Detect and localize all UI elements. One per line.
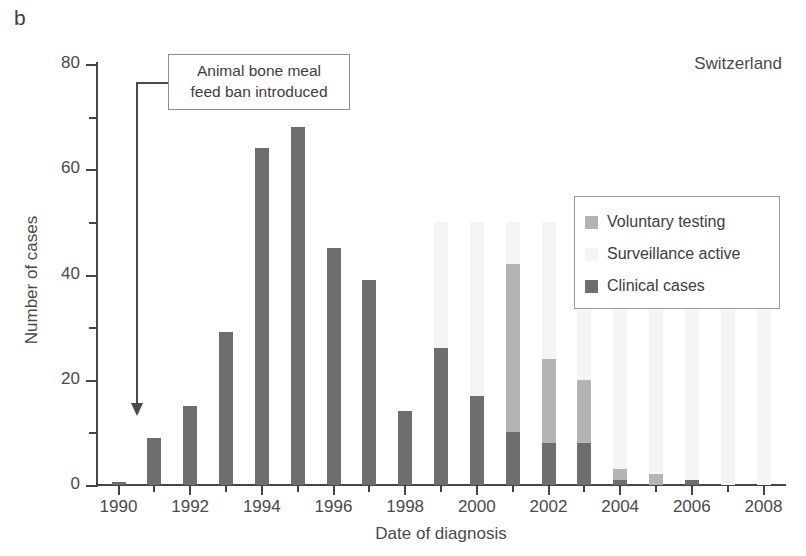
- x-tick: [476, 485, 478, 495]
- bar-clinical-cases: [183, 406, 197, 485]
- legend-label: Clinical cases: [607, 277, 705, 295]
- bar-clinical-cases: [255, 148, 269, 485]
- annotation-leader-vertical: [136, 82, 138, 403]
- y-tick-minor: [89, 222, 97, 224]
- y-tick-label: 40: [20, 264, 80, 284]
- bar-clinical-cases: [577, 443, 591, 485]
- x-tick-label: 2008: [734, 497, 794, 517]
- y-tick-label: 20: [20, 369, 80, 389]
- x-tick: [548, 485, 550, 495]
- x-tick-minor: [153, 485, 155, 492]
- x-tick-minor: [727, 485, 729, 492]
- x-tick-minor: [440, 485, 442, 492]
- bar-voluntary-testing: [506, 264, 520, 432]
- panel-letter: b: [14, 6, 26, 30]
- bar-voluntary-testing: [577, 380, 591, 443]
- bar-clinical-cases: [291, 127, 305, 485]
- bar-clinical-cases: [506, 432, 520, 485]
- x-tick: [118, 485, 120, 495]
- y-tick-label: 0: [20, 474, 80, 494]
- x-tick-minor: [583, 485, 585, 492]
- y-tick-minor: [89, 432, 97, 434]
- x-tick-minor: [512, 485, 514, 492]
- y-tick: [86, 64, 97, 66]
- annotation-box: Animal bone meal feed ban introduced: [168, 54, 350, 110]
- legend-label: Voluntary testing: [607, 213, 725, 231]
- annotation-line-2: feed ban introduced: [190, 82, 327, 103]
- x-tick-label: 2002: [519, 497, 579, 517]
- x-tick: [261, 485, 263, 495]
- x-tick: [619, 485, 621, 495]
- bar-clinical-cases: [434, 348, 448, 485]
- annotation-arrow-icon: [131, 403, 143, 416]
- bar-clinical-cases: [398, 411, 412, 485]
- x-tick-label: 1994: [232, 497, 292, 517]
- legend-swatch-icon: [585, 280, 598, 293]
- y-tick: [86, 275, 97, 277]
- y-tick: [86, 485, 97, 487]
- bar-clinical-cases: [362, 280, 376, 485]
- bar-clinical-cases: [470, 396, 484, 485]
- y-tick-label: 60: [20, 158, 80, 178]
- legend-item: Surveillance active: [585, 238, 779, 270]
- x-tick-minor: [655, 485, 657, 492]
- legend-label: Surveillance active: [607, 245, 740, 263]
- bar-clinical-cases: [613, 480, 627, 485]
- x-tick: [333, 485, 335, 495]
- x-tick: [691, 485, 693, 495]
- bar-clinical-cases: [685, 480, 699, 485]
- legend-swatch-icon: [585, 216, 598, 229]
- bar-clinical-cases: [542, 443, 556, 485]
- x-tick: [404, 485, 406, 495]
- x-tick-label: 2006: [662, 497, 722, 517]
- legend: Voluntary testingSurveillance activeClin…: [574, 196, 780, 309]
- legend-swatch-icon: [585, 248, 598, 261]
- x-tick-minor: [368, 485, 370, 492]
- x-tick: [189, 485, 191, 495]
- x-tick-minor: [297, 485, 299, 492]
- legend-item: Clinical cases: [585, 270, 779, 302]
- bar-clinical-cases: [327, 248, 341, 485]
- bar-clinical-cases: [147, 438, 161, 485]
- bar-voluntary-testing: [542, 359, 556, 443]
- bar-clinical-cases: [219, 332, 233, 485]
- figure-panel-b: b Switzerland Number of cases Date of di…: [0, 0, 806, 556]
- x-tick-label: 1990: [89, 497, 149, 517]
- bar-voluntary-testing: [649, 474, 663, 485]
- x-tick-minor: [225, 485, 227, 492]
- x-tick-label: 2000: [447, 497, 507, 517]
- y-tick: [86, 380, 97, 382]
- y-tick-label: 80: [20, 53, 80, 73]
- y-tick: [86, 169, 97, 171]
- legend-item: Voluntary testing: [585, 206, 779, 238]
- y-tick-minor: [89, 117, 97, 119]
- y-tick-minor: [89, 327, 97, 329]
- annotation-leader-horizontal: [136, 82, 168, 84]
- x-tick-label: 1992: [160, 497, 220, 517]
- x-tick-label: 1996: [304, 497, 364, 517]
- x-axis-title: Date of diagnosis: [97, 524, 785, 544]
- x-tick-label: 1998: [375, 497, 435, 517]
- x-tick: [763, 485, 765, 495]
- bar-voluntary-testing: [613, 469, 627, 480]
- bar-clinical-cases: [112, 482, 126, 485]
- annotation-line-1: Animal bone meal: [197, 61, 321, 82]
- x-tick-label: 2004: [590, 497, 650, 517]
